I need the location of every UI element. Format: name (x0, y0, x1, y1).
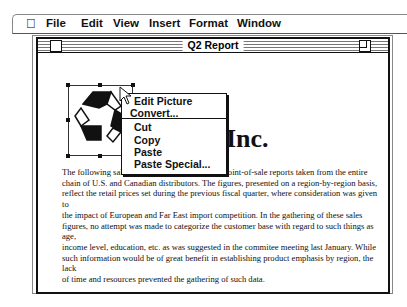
resize-handle[interactable] (98, 83, 102, 87)
resize-handle[interactable] (66, 83, 70, 87)
body-paragraph: The following sales figures are compiled… (62, 167, 380, 285)
menu-item-edit-picture[interactable]: Edit Picture (134, 95, 192, 107)
window-title: Q2 Report (183, 39, 244, 52)
menu-insert[interactable]: Insert (149, 17, 180, 29)
menu-item-copy[interactable]: Copy (134, 134, 160, 146)
menu-item-paste-special[interactable]: Paste Special... (134, 158, 210, 170)
title-bar[interactable]: Q2 Report (38, 39, 388, 53)
menu-bar:  File Edit View Insert Format Window (12, 14, 407, 34)
text-line: such information would be of great benef… (62, 253, 380, 274)
menu-item-paste[interactable]: Paste (134, 146, 162, 158)
text-line: income level, education, etc. as was sug… (62, 242, 380, 253)
text-line: figures, no attempt was made to categori… (62, 221, 380, 242)
menu-view[interactable]: View (113, 17, 139, 29)
resize-handle[interactable] (66, 154, 70, 158)
menu-edit[interactable]: Edit (81, 17, 103, 29)
resize-handle[interactable] (66, 118, 70, 122)
text-line: reflect the retail prices set during the… (62, 188, 380, 209)
context-menu: Edit Picture Convert... Cut Copy Paste P… (121, 93, 227, 175)
menu-item-cut[interactable]: Cut (134, 121, 152, 133)
arrow-cursor-icon (119, 86, 133, 106)
document-heading: Inc. (226, 124, 269, 154)
menu-format[interactable]: Format (189, 17, 228, 29)
close-box[interactable] (50, 40, 62, 52)
resize-handle[interactable] (98, 154, 102, 158)
text-line: the impact of European and Far East impo… (62, 210, 380, 221)
menu-separator (122, 118, 226, 119)
text-line: chain of U.S. and Canadian distributors.… (62, 178, 380, 189)
menu-file[interactable]: File (46, 17, 66, 29)
text-line: of time and resources prevented the gath… (62, 274, 380, 285)
zoom-box[interactable] (359, 40, 371, 52)
apple-menu-icon[interactable]:  (26, 16, 36, 31)
menu-window[interactable]: Window (237, 17, 281, 29)
